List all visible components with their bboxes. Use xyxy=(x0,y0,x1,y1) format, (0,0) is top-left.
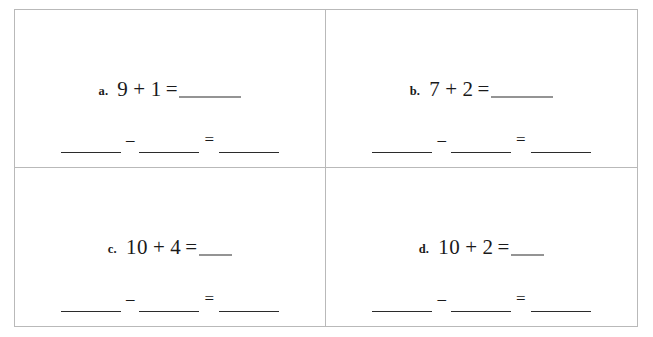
plus-operator-c: + xyxy=(148,235,170,260)
problem-label-b: b. xyxy=(410,83,420,98)
answer-blank-c[interactable] xyxy=(199,242,232,256)
problem-cell-c: c. 10 + 4 = – = xyxy=(15,168,326,326)
difference-blank-a[interactable] xyxy=(219,140,279,153)
addend2-b: 2 xyxy=(462,76,473,101)
subtraction-equals-d: = xyxy=(511,290,531,307)
problem-label-d: d. xyxy=(419,242,429,257)
minuend-blank-c[interactable] xyxy=(61,299,121,312)
answer-blank-d[interactable] xyxy=(511,242,544,256)
subtraction-equals-b: = xyxy=(511,131,531,148)
problem-cell-b: b. 7 + 2 = – = xyxy=(326,10,637,168)
minuend-blank-b[interactable] xyxy=(372,140,432,153)
minus-operator-a: – xyxy=(121,131,140,148)
addend1-c: 10 xyxy=(126,235,148,260)
subtraction-equals-a: = xyxy=(199,131,219,148)
addition-equation-c: c. 10 + 4 = xyxy=(15,235,325,260)
subtrahend-blank-c[interactable] xyxy=(139,299,199,312)
subtrahend-blank-b[interactable] xyxy=(451,140,511,153)
equals-operator-d: = xyxy=(493,235,511,260)
minuend-blank-a[interactable] xyxy=(61,140,121,153)
plus-operator-d: + xyxy=(460,235,482,260)
minuend-blank-d[interactable] xyxy=(372,299,432,312)
addend1-a: 9 xyxy=(117,76,128,101)
addition-equation-b: b. 7 + 2 = xyxy=(326,76,637,101)
subtraction-equation-c: – = xyxy=(15,295,325,312)
equals-operator-c: = xyxy=(181,235,199,260)
minus-operator-d: – xyxy=(432,290,451,307)
difference-blank-d[interactable] xyxy=(531,299,591,312)
subtraction-equation-d: – = xyxy=(326,295,637,312)
subtrahend-blank-a[interactable] xyxy=(139,140,199,153)
addend2-a: 1 xyxy=(151,76,162,101)
addend2-d: 2 xyxy=(482,235,493,260)
subtraction-equation-a: – = xyxy=(15,136,325,153)
answer-blank-a[interactable] xyxy=(179,83,241,97)
addend2-c: 4 xyxy=(170,235,181,260)
difference-blank-c[interactable] xyxy=(219,299,279,312)
worksheet-grid: a. 9 + 1 = – = b. 7 + 2 = – = xyxy=(14,9,638,327)
plus-operator-b: + xyxy=(440,76,462,101)
subtraction-equation-b: – = xyxy=(326,136,637,153)
equals-operator-a: = xyxy=(162,76,180,101)
addend1-d: 10 xyxy=(438,235,460,260)
subtraction-equals-c: = xyxy=(199,290,219,307)
problem-cell-a: a. 9 + 1 = – = xyxy=(15,10,326,168)
minus-operator-b: – xyxy=(432,131,451,148)
answer-blank-b[interactable] xyxy=(491,83,553,97)
difference-blank-b[interactable] xyxy=(531,140,591,153)
problem-label-a: a. xyxy=(99,83,109,98)
subtrahend-blank-d[interactable] xyxy=(451,299,511,312)
equals-operator-b: = xyxy=(473,76,491,101)
plus-operator-a: + xyxy=(128,76,150,101)
addend1-b: 7 xyxy=(429,76,440,101)
problem-label-c: c. xyxy=(108,242,117,257)
minus-operator-c: – xyxy=(121,290,140,307)
addition-equation-d: d. 10 + 2 = xyxy=(326,235,637,260)
problem-cell-d: d. 10 + 2 = – = xyxy=(326,168,637,326)
addition-equation-a: a. 9 + 1 = xyxy=(15,76,325,101)
